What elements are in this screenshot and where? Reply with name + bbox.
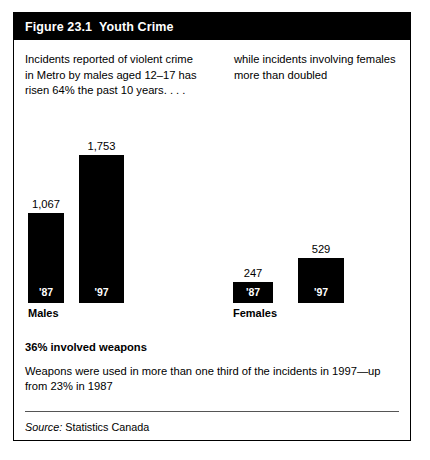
weapons-heading: 36% involved weapons [14,341,410,353]
bar-year-males-97: '97 [79,286,124,298]
bar-value-females-87: 247 [244,267,263,279]
bar-year-females-97: '97 [298,286,344,298]
bar-rect-females-87: '87 [233,282,273,303]
bar-rect-males-97: '97 [79,155,124,303]
intro-right-line-2: more than doubled [234,68,400,84]
intro-text: Incidents reported of violent crime in M… [14,40,410,99]
intro-left-line-2: in Metro by males aged 12–17 has [25,68,234,84]
group-label-males: Males [28,307,59,319]
intro-left-line-3: risen 64% the past 10 years. . . . [25,83,234,99]
bar-rect-females-97: '97 [298,258,344,303]
bar-females-97: 529 '97 [298,258,344,303]
intro-column-left: Incidents reported of violent crime in M… [25,52,234,99]
intro-left-line-1: Incidents reported of violent crime [25,52,234,68]
bar-year-males-87: '87 [28,286,64,298]
figure-panel: Figure 23.1 Youth Crime Incidents report… [13,12,411,441]
source-text: Statistics Canada [62,421,149,433]
weapons-body: Weapons were used in more than one third… [14,364,410,395]
bar-value-females-97: 529 [312,243,331,255]
group-label-row: Males Females [14,303,410,321]
group-label-females: Females [233,307,277,319]
bar-females-87: 247 '87 [233,282,273,303]
weapons-body-line-1: Weapons were used in more than one third… [25,364,399,380]
weapons-body-line-2: from 23% in 1987 [25,379,399,395]
figure-title: Figure 23.1 Youth Crime [25,20,174,34]
bar-value-males-87: 1,067 [32,198,60,210]
intro-column-right: while incidents involving females more t… [234,52,400,99]
intro-right-line-1: while incidents involving females [234,52,400,68]
source-divider [25,411,399,412]
bar-males-97: 1,753 '97 [79,155,124,303]
source-line: Source: Statistics Canada [14,421,410,433]
bar-chart: 1,067 '87 1,753 '97 247 '87 529 '97 [14,103,410,303]
bar-value-males-97: 1,753 [88,140,116,152]
figure-header: Figure 23.1 Youth Crime [14,13,410,40]
bar-year-females-87: '87 [233,286,273,298]
bar-males-87: 1,067 '87 [28,213,64,303]
bar-rect-males-87: '87 [28,213,64,303]
source-label: Source: [25,421,62,433]
